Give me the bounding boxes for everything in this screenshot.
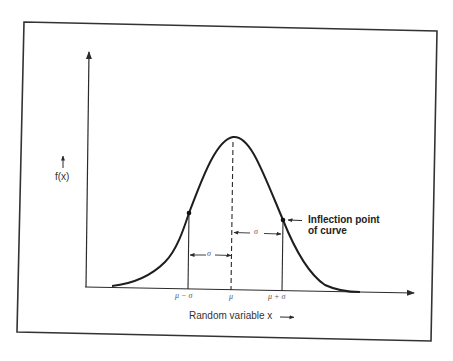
x-axis-label: Random variable x bbox=[189, 310, 272, 321]
left-sigma-label: σ bbox=[207, 249, 211, 258]
tick-label-mu-plus-sigma: μ + σ bbox=[268, 292, 285, 301]
mu-plus-sigma-line bbox=[282, 220, 283, 291]
left-sigma-arrow-right bbox=[215, 255, 231, 256]
inflection-point-right bbox=[281, 218, 286, 223]
y-axis-label: f(x) bbox=[55, 171, 69, 182]
annotation-line-1: Inflection point bbox=[308, 214, 380, 225]
right-sigma-label: σ bbox=[254, 227, 258, 236]
tick-label-mu: μ bbox=[229, 292, 233, 301]
figure-frame bbox=[17, 22, 437, 341]
y-axis bbox=[86, 52, 89, 287]
inflection-point-left bbox=[187, 211, 192, 216]
inflection-annotation: Inflection point of curve bbox=[308, 214, 380, 236]
annotation-arrow bbox=[288, 220, 302, 221]
mu-minus-sigma-line bbox=[188, 213, 189, 289]
tick-label-mu-minus-sigma: μ − σ bbox=[175, 291, 192, 300]
mean-line bbox=[231, 142, 233, 290]
x-axis bbox=[85, 287, 414, 293]
right-sigma-arrow-left bbox=[234, 233, 250, 234]
diagram-stage: f(x) μ − σ μ μ + σ Random variable x σ σ… bbox=[0, 0, 453, 361]
annotation-line-2: of curve bbox=[308, 225, 380, 236]
right-sigma-arrow-right bbox=[264, 234, 281, 235]
